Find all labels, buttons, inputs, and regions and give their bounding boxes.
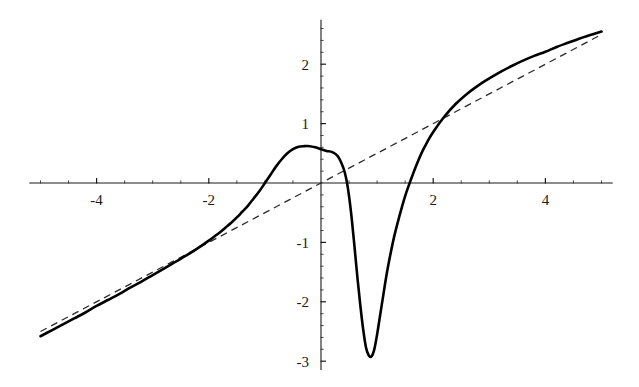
x-axis-tick-label: -2: [203, 192, 216, 208]
x-axis-tick-label: 2: [429, 192, 437, 208]
y-axis-tick-label: 2: [302, 57, 310, 73]
chart-container: -4-22421-1-2-3: [0, 0, 639, 387]
y-axis-tick-label: -1: [297, 235, 310, 251]
y-axis-tick-label: 1: [302, 116, 310, 132]
x-axis-tick-label: -4: [90, 192, 103, 208]
x-axis-tick-label: 4: [542, 192, 550, 208]
y-axis-tick-label: -2: [297, 294, 310, 310]
function-plot: -4-22421-1-2-3: [0, 0, 639, 387]
y-axis-tick-label: -3: [297, 354, 310, 370]
